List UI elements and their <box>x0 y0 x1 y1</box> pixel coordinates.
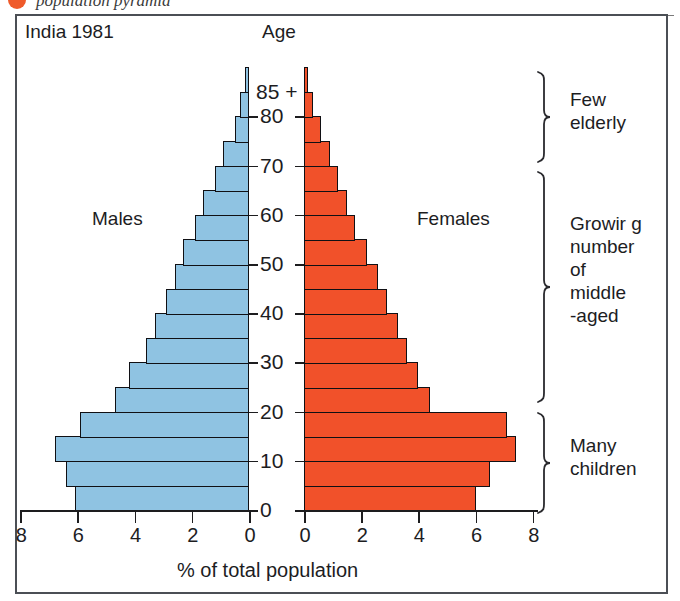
x-tick-left-0 <box>249 510 251 523</box>
bar-female-10-14 <box>304 436 516 462</box>
bar-male-60-64 <box>203 190 249 216</box>
chart-frame: India 1981 Age Males Females 01020304050… <box>15 14 668 594</box>
age-tick-label-0: 0 <box>260 498 272 522</box>
age-tick-label-85plus: 85 + <box>256 80 297 104</box>
bar-female-75-79 <box>304 116 321 142</box>
x-tick-label-right-2: 2 <box>357 524 368 547</box>
orange-circle-bullet-icon <box>8 0 26 9</box>
bar-male-5-9 <box>66 461 249 487</box>
bar-female-85+ <box>304 67 308 93</box>
age-tick-right-20 <box>295 412 304 414</box>
bar-female-70-74 <box>304 141 330 167</box>
age-tick-label-50: 50 <box>260 252 283 276</box>
brace-icon <box>535 71 551 163</box>
x-tick-left-2 <box>192 510 194 523</box>
age-tick-left-40 <box>249 313 258 315</box>
bar-male-55-59 <box>195 215 249 241</box>
bar-male-75-79 <box>235 116 249 142</box>
age-tick-right-50 <box>295 264 304 266</box>
bar-female-5-9 <box>304 461 490 487</box>
age-tick-left-70 <box>249 166 258 168</box>
age-tick-left-10 <box>249 461 258 463</box>
x-tick-label-left-2: 2 <box>187 524 198 547</box>
age-tick-right-10 <box>295 461 304 463</box>
population-pyramid-figure: population pyramid India 1981 Age Males … <box>0 0 680 601</box>
bar-female-35-39 <box>304 313 398 339</box>
brace-many-children <box>535 412 551 514</box>
age-tick-label-70: 70 <box>260 154 283 178</box>
bar-male-40-44 <box>166 289 249 315</box>
age-tick-right-80 <box>295 116 304 118</box>
bar-male-15-19 <box>80 412 249 438</box>
bar-male-85+ <box>245 67 249 93</box>
bar-male-25-29 <box>129 362 249 388</box>
x-tick-right-2 <box>361 510 363 523</box>
brace-label-growing-middle-aged: Growir g number of middle -aged <box>570 212 642 327</box>
x-tick-left-4 <box>135 510 137 523</box>
bar-male-30-34 <box>146 338 249 364</box>
age-tick-label-10: 10 <box>260 449 283 473</box>
bar-female-45-49 <box>304 264 378 290</box>
x-tick-label-right-8: 8 <box>528 524 539 547</box>
x-tick-label-left-6: 6 <box>73 524 84 547</box>
bar-female-30-34 <box>304 338 407 364</box>
bar-female-60-64 <box>304 190 347 216</box>
age-tick-left-20 <box>249 412 258 414</box>
x-tick-left-6 <box>77 510 79 523</box>
age-tick-right-30 <box>295 362 304 364</box>
age-tick-left-80 <box>249 116 258 118</box>
age-tick-right-60 <box>295 215 304 217</box>
age-tick-right-40 <box>295 313 304 315</box>
bar-male-80-84 <box>240 92 249 118</box>
bar-male-65-69 <box>215 166 249 192</box>
age-tick-left-30 <box>249 362 258 364</box>
age-tick-label-80: 80 <box>260 104 283 128</box>
x-tick-label-left-4: 4 <box>130 524 141 547</box>
bar-female-20-24 <box>304 387 430 413</box>
age-tick-label-30: 30 <box>260 350 283 374</box>
bar-male-20-24 <box>115 387 249 413</box>
bar-female-50-54 <box>304 239 367 265</box>
x-tick-left-8 <box>20 510 22 523</box>
bar-female-40-44 <box>304 289 387 315</box>
x-tick-label-left-0: 0 <box>244 524 255 547</box>
bar-male-35-39 <box>155 313 249 339</box>
brace-growing-middle-aged <box>535 171 551 403</box>
age-tick-left-50 <box>249 264 258 266</box>
age-tick-label-40: 40 <box>260 301 283 325</box>
bar-female-15-19 <box>304 412 507 438</box>
bar-female-55-59 <box>304 215 355 241</box>
x-tick-right-6 <box>476 510 478 523</box>
bar-male-45-49 <box>175 264 249 290</box>
bar-male-70-74 <box>223 141 249 167</box>
brace-icon <box>535 171 551 403</box>
brace-few-elderly <box>535 71 551 163</box>
brace-label-many-children: Many children <box>570 434 637 480</box>
x-tick-label-right-4: 4 <box>414 524 425 547</box>
brace-label-few-elderly: Few elderly <box>570 88 626 134</box>
bar-female-25-29 <box>304 362 418 388</box>
x-tick-label-right-0: 0 <box>299 524 310 547</box>
brace-icon <box>535 412 551 514</box>
age-tick-left-60 <box>249 215 258 217</box>
bar-male-0-4 <box>75 485 249 511</box>
age-tick-label-60: 60 <box>260 203 283 227</box>
x-axis-right <box>303 510 538 512</box>
age-tick-label-20: 20 <box>260 400 283 424</box>
x-axis-title: % of total population <box>177 559 358 582</box>
x-tick-right-0 <box>304 510 306 523</box>
age-tick-right-70 <box>295 166 304 168</box>
bar-male-10-14 <box>55 436 249 462</box>
bar-female-0-4 <box>304 485 476 511</box>
x-tick-right-4 <box>418 510 420 523</box>
caption-text: population pyramid <box>36 0 171 11</box>
bar-female-80-84 <box>304 92 313 118</box>
x-tick-label-left-8: 8 <box>16 524 27 547</box>
bar-female-65-69 <box>304 166 338 192</box>
x-tick-label-right-6: 6 <box>471 524 482 547</box>
bar-male-50-54 <box>183 239 249 265</box>
